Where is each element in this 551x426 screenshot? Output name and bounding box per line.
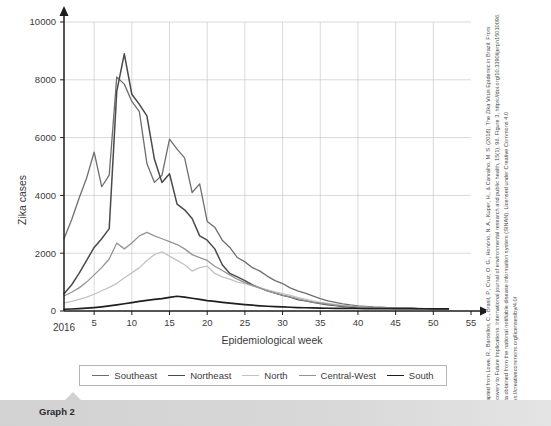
x-tick-label: 25 (240, 317, 251, 328)
caption-bar (0, 400, 551, 426)
legend-swatch-north (242, 375, 259, 376)
chart-gridlines (64, 22, 471, 311)
caption-label: Graph 2 (39, 406, 75, 417)
x-tick-label: 10 (127, 317, 138, 328)
legend-label-south: South (409, 370, 434, 381)
x-tick-label: 35 (315, 317, 326, 328)
y-tick-label: 10000 (30, 16, 56, 27)
y-tick-label: 8000 (35, 74, 56, 85)
chart-series-group (64, 54, 448, 309)
legend-entry-central-west[interactable]: Central-West (299, 370, 376, 381)
citation-text: Adapted from Lowe, R., Barcellos, C., Br… (484, 4, 520, 408)
legend-entry-north[interactable]: North (242, 370, 287, 381)
x-tick-label: 20 (202, 317, 213, 328)
x-tick-label: 30 (277, 317, 288, 328)
legend-swatch-northeast (168, 375, 185, 376)
legend-label-northeast: Northeast (190, 370, 231, 381)
legend-swatch-south (387, 375, 404, 376)
y-tick-label: 0 (51, 305, 56, 316)
x-tick-label: 45 (390, 317, 401, 328)
x-tick-label: 15 (164, 317, 175, 328)
x-axis-title: Epidemiological week (222, 334, 324, 346)
legend-entry-northeast[interactable]: Northeast (168, 370, 231, 381)
y-tick-label: 4000 (35, 190, 56, 201)
legend-label-north: North (264, 370, 287, 381)
y-axis-title: Zika cases (16, 175, 28, 225)
chart-tick-labels: 0200040006000800010000510152025303540455… (30, 16, 477, 328)
x-tick-label: 55 (466, 317, 477, 328)
x-tick-label: 5 (91, 317, 96, 328)
x-axis-origin-label: 2016 (53, 322, 76, 333)
legend-swatch-central-west (299, 375, 316, 376)
chart-legend: SoutheastNortheastNorthCentral-WestSouth (79, 365, 447, 386)
legend-label-central-west: Central-West (321, 370, 376, 381)
chart-axes (60, 6, 487, 316)
series-line-central-west (64, 232, 448, 308)
y-tick-label: 2000 (35, 248, 56, 259)
series-line-southeast (64, 77, 448, 309)
x-tick-label: 50 (428, 317, 439, 328)
legend-label-southeast: Southeast (114, 370, 157, 381)
legend-entry-south[interactable]: South (387, 370, 434, 381)
legend-entry-southeast[interactable]: Southeast (92, 370, 157, 381)
x-tick-label: 40 (353, 317, 364, 328)
legend-swatch-southeast (92, 375, 109, 376)
graph-figure: 0200040006000800010000510152025303540455… (0, 0, 551, 426)
series-line-northeast (64, 54, 448, 309)
series-line-north (64, 252, 448, 309)
citation-block: Adapted from Lowe, R., Barcellos, C., Br… (484, 4, 524, 408)
y-tick-label: 6000 (35, 132, 56, 143)
zika-cases-line-chart: 0200040006000800010000510152025303540455… (0, 0, 486, 352)
